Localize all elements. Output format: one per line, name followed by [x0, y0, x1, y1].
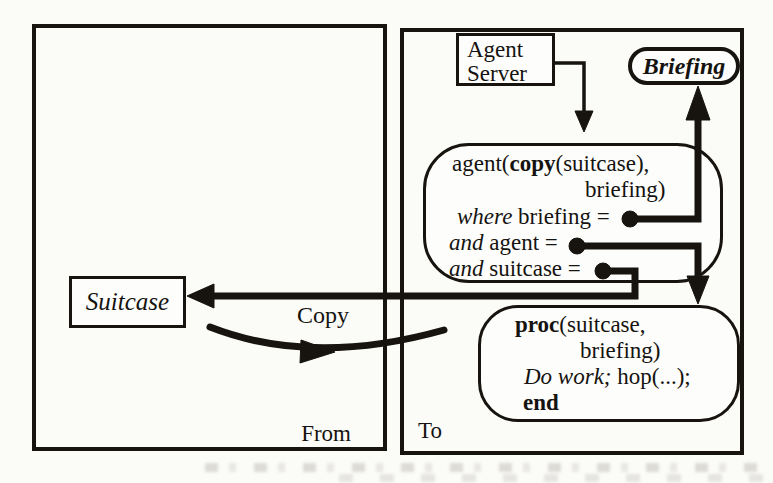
from-machine-panel: From — [32, 24, 387, 451]
proc-line1-rest: (suitcase, — [559, 312, 645, 337]
proc-line3-rest: hop(...); — [612, 364, 691, 389]
proc-line4: end — [523, 390, 559, 415]
suitcase-label: Suitcase — [86, 288, 169, 316]
agent-call-line1-bold: copy — [509, 151, 555, 176]
agent-call-line3: where briefing = — [457, 204, 610, 229]
agent-call-line4-keyword: and — [449, 230, 484, 255]
agent-server-box: Agent Server — [456, 33, 555, 86]
agent-call-box: agent(copy(suitcase), briefing) where br… — [423, 143, 723, 283]
agent-server-label-line2: Server — [467, 62, 552, 86]
agent-server-label-line1: Agent — [467, 38, 552, 62]
agent-call-line1-pre: agent( — [452, 151, 509, 176]
to-panel-label: To — [418, 419, 442, 442]
agent-call-line3-keyword: where — [457, 204, 512, 229]
proc-line3-italic: Do work; — [524, 364, 612, 389]
briefing-node: Briefing — [628, 47, 740, 85]
figure-canvas: From To Agent Server Briefing agent(copy… — [0, 0, 773, 483]
copy-arrow-label: Copy — [297, 303, 349, 327]
agent-call-line2: briefing) — [585, 177, 665, 202]
proc-line2: briefing) — [580, 338, 660, 363]
suitcase-box: Suitcase — [69, 276, 186, 328]
agent-call-line1-post: (suitcase), — [555, 151, 649, 176]
from-panel-label: From — [301, 422, 351, 445]
proc-line1: proc(suitcase, — [515, 312, 646, 337]
briefing-label: Briefing — [643, 53, 726, 80]
agent-call-line5: and suitcase = — [449, 256, 581, 281]
proc-line3: Do work; hop(...); — [524, 364, 691, 389]
agent-call-line5-keyword: and — [449, 256, 484, 281]
scan-noise-strip — [205, 463, 765, 472]
proc-box: proc(suitcase, briefing) Do work; hop(..… — [478, 305, 740, 422]
agent-call-line3-rest: briefing = — [512, 204, 609, 229]
agent-call-line4: and agent = — [449, 230, 564, 255]
agent-call-line5-rest: suitcase = — [484, 256, 581, 281]
agent-call-line4-rest: agent = — [484, 230, 564, 255]
proc-line1-keyword: proc — [515, 312, 559, 337]
agent-call-line1: agent(copy(suitcase), — [452, 151, 649, 176]
scan-noise-strip — [330, 474, 770, 482]
